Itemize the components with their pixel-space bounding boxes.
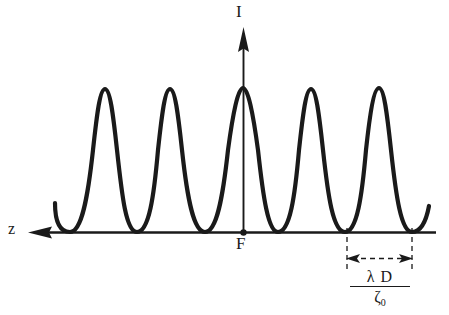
- fringe-extension-lines: [347, 228, 412, 272]
- focal-point-label: F: [236, 234, 245, 254]
- denominator-symbol: ζ: [374, 288, 381, 305]
- intensity-curve: [55, 88, 429, 232]
- fringe-spacing-numerator: λ D: [349, 268, 411, 286]
- dimension-arrowhead-left: [346, 254, 360, 263]
- z-axis-arrowhead: [28, 227, 52, 239]
- intensity-axis: [238, 27, 249, 236]
- fringe-spacing-denominator: ζ0: [349, 287, 411, 312]
- denominator-subscript: 0: [381, 297, 386, 308]
- z-axis-label: z: [8, 220, 15, 238]
- fringe-spacing-label: λ D ζ0: [349, 268, 411, 312]
- z-axis: [28, 227, 436, 239]
- intensity-axis-arrowhead: [238, 27, 249, 52]
- intensity-axis-label: I: [236, 2, 242, 22]
- fringe-spacing-dimension: [346, 254, 413, 263]
